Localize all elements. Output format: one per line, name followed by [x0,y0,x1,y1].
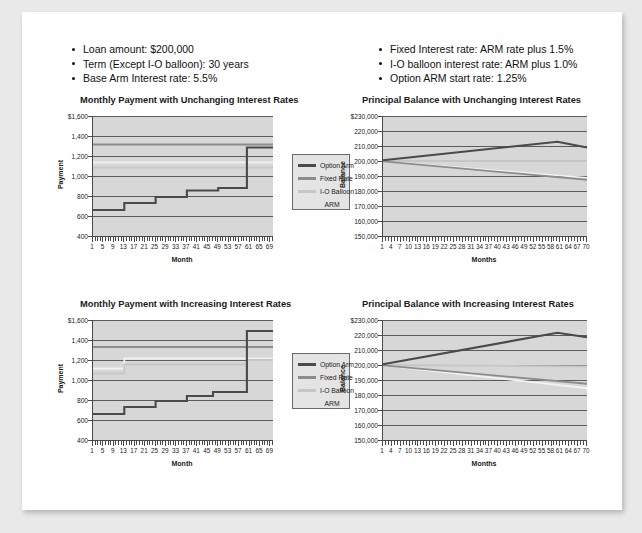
x-axis-tick [262,237,263,241]
series-layer [93,116,273,236]
y-axis-tick-label: 600 [77,417,88,424]
x-axis-tick [548,441,549,445]
x-axis-tick [144,237,145,242]
x-axis-tick-label: 52 [529,447,536,454]
x-axis-tick [382,237,383,242]
x-axis-tick [191,441,192,445]
x-axis-tick [256,237,257,241]
x-axis-tick [102,441,103,446]
x-axis-tick [483,237,484,241]
x-axis-tick [243,441,244,445]
x-axis-tick [571,441,572,445]
x-axis-tick-label: 21 [141,447,148,454]
x-axis-tick [108,237,109,241]
y-axis-tick [378,146,382,147]
x-axis-tick-label: 13 [414,243,421,250]
x-axis-tick [420,441,421,445]
x-axis-tick [160,237,161,241]
x-axis-tick [241,237,242,241]
x-axis-tick [553,237,554,241]
y-axis-tick [378,365,382,366]
x-axis-tick [465,441,466,445]
y-axis-tick [378,380,382,381]
x-axis-tick [108,441,109,445]
y-axis-tick [88,156,92,157]
x-axis-tick-label: 29 [161,243,168,250]
x-axis-tick-label: 46 [511,243,518,250]
x-axis-tick [215,441,216,445]
x-axis-tick-label: 7 [398,447,402,454]
x-axis-tick [230,237,231,241]
x-axis-tick-label: 52 [529,243,536,250]
y-axis-tick [88,340,92,341]
x-axis-tick-label: 22 [441,447,448,454]
x-axis-tick [118,441,119,445]
x-axis-tick [189,441,190,445]
x-axis-tick [256,441,257,445]
x-axis-tick [518,441,519,445]
x-axis-tick [209,237,210,241]
x-axis-tick [217,441,218,446]
x-axis-tick [509,441,510,445]
x-axis-tick [565,441,566,445]
x-axis-tick [149,441,150,445]
y-axis-tick-label: $1,600 [68,317,88,324]
x-axis-tick [199,237,200,241]
y-axis-tick [88,216,92,217]
x-axis-tick [243,237,244,241]
x-axis-tick [503,237,504,241]
x-axis-tick-label: 28 [458,447,465,454]
x-axis-tick [173,441,174,445]
x-axis-tick [264,441,265,445]
x-axis-tick [204,441,205,445]
x-axis-tick [220,441,221,445]
x-axis-tick [196,441,197,446]
chart-balance-increasing: Principal Balance with Increasing Intere… [340,299,642,474]
x-axis-tick [215,237,216,241]
x-axis-tick [406,237,407,241]
x-axis-tick-label: 61 [245,447,252,454]
plot-background [382,320,587,441]
x-axis-tick [202,237,203,241]
x-axis-tick [272,237,273,241]
y-axis-tick [378,221,382,222]
x-axis-tick [533,441,534,446]
x-axis-tick [165,441,166,446]
y-axis-tick [378,116,382,117]
chart-title: Monthly Payment with Unchanging Interest… [80,95,338,105]
x-axis-tick [385,441,386,445]
legend-item: Option Arm [298,358,344,371]
x-axis-tick [105,441,106,445]
x-axis-tick [420,237,421,241]
x-axis-tick [397,237,398,241]
x-axis-tick [262,441,263,445]
y-axis-tick [88,116,92,117]
x-axis-tick [225,237,226,241]
x-axis-tick-label: 5 [101,243,105,250]
x-axis-tick [196,237,197,242]
x-axis-tick [562,441,563,445]
legend-label: ARM [324,201,339,208]
y-axis-tick-label: 170,000 [354,203,378,210]
series-layer [93,320,273,440]
series-line [93,148,273,211]
y-axis-tick-label: $230,000 [350,317,378,324]
y-axis-tick-label: 1,400 [71,337,88,344]
x-axis-tick-label: 49 [520,447,527,454]
x-axis-tick [506,441,507,446]
legend-item: I-O Balloon [298,384,344,397]
x-axis-tick [233,441,234,445]
y-axis-tick-label: 180,000 [354,188,378,195]
series-line [383,365,587,367]
x-axis-title: Months [382,256,586,263]
legend-item: ARM [298,198,344,211]
y-axis-tick-label: 170,000 [354,407,378,414]
series-layer [383,320,587,440]
x-axis-tick [121,441,122,445]
x-axis-tick [178,237,179,241]
x-axis-tick-label: 13 [414,447,421,454]
x-axis-tick [545,441,546,445]
x-axis-tick-label: 45 [203,243,210,250]
x-axis-tick [186,441,187,446]
y-axis-tick [88,176,92,177]
